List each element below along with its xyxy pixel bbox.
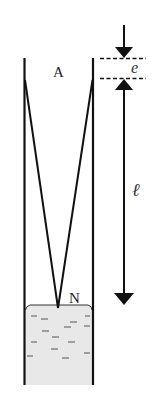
liquid — [26, 305, 93, 385]
line-left-to-N — [25, 80, 58, 308]
arrow-length-icon — [114, 79, 134, 305]
tube-diagram: A N e ℓ — [0, 0, 164, 404]
line-right-to-N — [58, 80, 93, 308]
arrow-down-to-gap-icon — [115, 25, 133, 58]
label-N: N — [69, 290, 80, 306]
label-l: ℓ — [132, 180, 140, 200]
label-A: A — [53, 64, 64, 80]
label-e: e — [131, 59, 138, 76]
